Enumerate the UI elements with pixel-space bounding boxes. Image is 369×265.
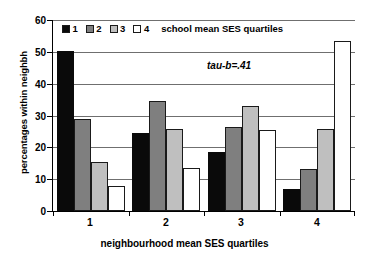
x-axis-tick-label: 3 xyxy=(238,216,244,228)
bar-series-1-cat-3[interactable] xyxy=(208,152,225,211)
x-axis-tick xyxy=(354,211,355,216)
bar-series-3-cat-1[interactable] xyxy=(91,162,108,211)
bar-series-2-cat-4[interactable] xyxy=(300,169,317,211)
bar-series-4-cat-1[interactable] xyxy=(108,186,125,211)
bar-group xyxy=(204,20,280,211)
legend: 1234school mean SES quartiles xyxy=(62,23,283,34)
legend-entry-3[interactable]: 3 xyxy=(110,23,126,34)
bar-series-3-cat-3[interactable] xyxy=(242,106,259,211)
x-axis-title: neighbourhood mean SES quartiles xyxy=(0,238,369,249)
legend-swatch-icon xyxy=(86,25,94,33)
y-axis-tick-label: 0 xyxy=(40,206,46,217)
legend-entry-2[interactable]: 2 xyxy=(86,23,102,34)
y-axis-tick-label: 40 xyxy=(35,78,46,89)
legend-swatch-icon xyxy=(133,25,141,33)
bar-group xyxy=(280,20,356,211)
bar-series-3-cat-4[interactable] xyxy=(317,129,334,211)
legend-entry-1[interactable]: 1 xyxy=(62,23,78,34)
bar-series-2-cat-3[interactable] xyxy=(225,127,242,211)
x-axis-tick-label: 4 xyxy=(314,216,320,228)
x-axis-tick xyxy=(280,211,281,216)
y-axis-tick-label: 50 xyxy=(35,46,46,57)
bar-group xyxy=(129,20,205,211)
legend-label: 4 xyxy=(144,23,149,34)
y-axis-tick-label: 20 xyxy=(35,142,46,153)
bar-series-1-cat-4[interactable] xyxy=(283,189,300,211)
legend-label: 2 xyxy=(96,23,101,34)
legend-entry-4[interactable]: 4 xyxy=(133,23,149,34)
legend-swatch-icon xyxy=(62,25,70,33)
bar-series-1-cat-1[interactable] xyxy=(57,51,74,211)
x-axis-tick-label: 2 xyxy=(163,216,169,228)
bar-series-4-cat-4[interactable] xyxy=(334,41,351,211)
legend-swatch-icon xyxy=(110,25,118,33)
legend-label: 1 xyxy=(73,23,78,34)
bar-series-4-cat-3[interactable] xyxy=(259,130,276,211)
bar-series-3-cat-2[interactable] xyxy=(166,129,183,211)
legend-label: 3 xyxy=(120,23,125,34)
bar-series-2-cat-2[interactable] xyxy=(149,101,166,211)
bar-series-1-cat-2[interactable] xyxy=(132,133,149,211)
x-axis-tick xyxy=(129,211,130,216)
bar-series-2-cat-1[interactable] xyxy=(74,119,91,211)
y-axis-title: percentages within neighbh xyxy=(18,13,29,213)
y-axis-tick-label: 10 xyxy=(35,174,46,185)
tau-b-annotation: tau-b=.41 xyxy=(207,60,251,71)
bar-group xyxy=(53,20,129,211)
bar-series-4-cat-2[interactable] xyxy=(183,168,200,211)
bar-chart-figure: percentages within neighbh 0102030405060… xyxy=(0,0,369,265)
y-axis-tick-label: 60 xyxy=(35,15,46,26)
x-axis-tick-label: 1 xyxy=(87,216,93,228)
y-axis-tick-label: 30 xyxy=(35,110,46,121)
x-axis-tick xyxy=(53,211,54,216)
plot-area: 0102030405060 xyxy=(52,20,355,212)
x-axis-tick xyxy=(204,211,205,216)
legend-title: school mean SES quartiles xyxy=(161,23,283,34)
bar-groups xyxy=(53,20,355,211)
